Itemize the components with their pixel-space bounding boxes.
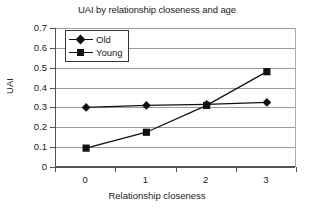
- x-axis-tick-mark: [176, 167, 177, 172]
- x-axis-tick-group: 0123: [55, 167, 296, 207]
- x-axis-tick-label: 2: [203, 175, 208, 185]
- x-axis-tick-mark: [115, 167, 116, 172]
- chart-legend: Old Young: [65, 30, 129, 62]
- x-axis-tick-mark: [296, 167, 297, 172]
- data-point-square-marker: [203, 102, 210, 109]
- chart-title: UAI by relationship closeness and age: [0, 4, 314, 15]
- data-point-square-marker: [143, 129, 150, 136]
- x-axis-tick-mark: [55, 167, 56, 172]
- y-axis-tick-label: 0.3: [34, 103, 47, 113]
- legend-label-young: Young: [93, 47, 123, 58]
- y-axis-tick-label: 0.2: [34, 123, 47, 133]
- y-axis-tick-label: 0.6: [34, 43, 47, 53]
- x-axis-tick-label: 0: [82, 175, 87, 185]
- legend-item-old[interactable]: Old: [69, 33, 123, 46]
- series-old: [82, 98, 272, 112]
- y-axis-tick-label: 0.7: [34, 23, 47, 33]
- series-line: [86, 72, 267, 148]
- data-point-diamond-marker: [142, 101, 151, 110]
- legend-marker-square-icon: [69, 47, 93, 58]
- legend-item-young[interactable]: Young: [69, 46, 123, 59]
- y-axis-tick-label: 0.4: [34, 83, 47, 93]
- y-axis-tick-label: 0.5: [34, 63, 47, 73]
- y-axis-tick-label: 0.1: [34, 142, 47, 152]
- x-axis-title: Relationship closeness: [0, 190, 314, 201]
- chart-container: UAI by relationship closeness and age UA…: [0, 0, 314, 215]
- data-point-square-marker: [263, 68, 270, 75]
- y-axis-tick-group: 0.70.60.50.40.30.20.10: [0, 28, 55, 167]
- series-line: [86, 102, 267, 107]
- data-point-square-marker: [83, 145, 90, 152]
- x-axis-tick-label: 1: [143, 175, 148, 185]
- data-point-diamond-marker: [262, 98, 271, 107]
- legend-label-old: Old: [93, 34, 111, 45]
- y-axis-tick-label: 0: [42, 162, 47, 172]
- x-axis-tick-label: 3: [263, 175, 268, 185]
- data-point-diamond-marker: [82, 103, 91, 112]
- x-axis-tick-mark: [236, 167, 237, 172]
- legend-marker-diamond-icon: [69, 34, 93, 45]
- series-young: [83, 68, 271, 152]
